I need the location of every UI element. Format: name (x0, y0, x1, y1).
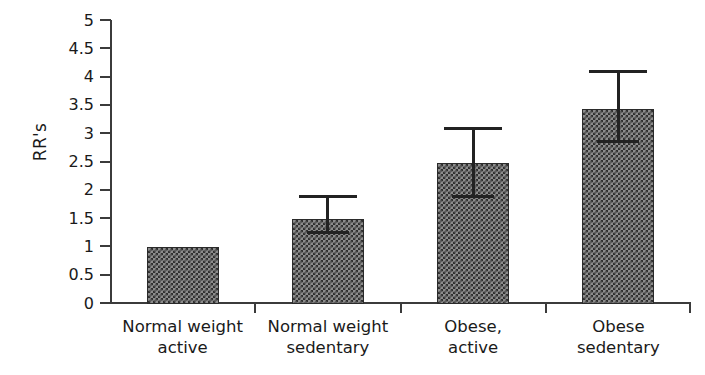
y-axis-tick-label: 3.5 (44, 96, 94, 114)
error-bar-cap-lower (307, 231, 349, 234)
x-axis-category-label: Normal weight sedentary (255, 316, 400, 358)
error-bar-cap-upper (299, 195, 357, 198)
x-axis-category-label: Normal weight active (110, 316, 255, 358)
error-bar-stem (617, 72, 620, 141)
error-bar-stem (326, 196, 329, 232)
bar-group (582, 20, 654, 304)
plot-area (110, 20, 691, 304)
y-axis-tick-label: 1 (44, 237, 94, 255)
y-axis-tick-label: 2 (44, 181, 94, 199)
x-axis-category-label: Obese sedentary (546, 316, 691, 358)
y-axis-tick-label: 2.5 (44, 153, 94, 171)
error-bar-cap-lower (597, 140, 639, 143)
error-bar-cap-upper (589, 70, 647, 73)
y-axis-tick-label: 4.5 (44, 39, 94, 57)
error-bar-cap-upper (444, 127, 502, 130)
bar-group (292, 20, 364, 304)
error-bar-stem (472, 129, 475, 197)
bar-chart: RR's 54.543.532.521.510.50 Normal weight… (0, 0, 705, 375)
y-axis-tick-label: 4 (44, 68, 94, 86)
y-axis-tick-label: 3 (44, 124, 94, 142)
x-axis-category-label: Obese, active (401, 316, 546, 358)
y-axis-tick-label: 1.5 (44, 209, 94, 227)
bar-group (147, 20, 219, 304)
y-axis-tick-label: 5 (44, 11, 94, 29)
y-axis-tick-label: 0 (44, 294, 94, 312)
y-axis-tick-label: 0.5 (44, 266, 94, 284)
error-bar-cap-lower (452, 195, 494, 198)
bar-group (437, 20, 509, 304)
bar (147, 247, 219, 304)
